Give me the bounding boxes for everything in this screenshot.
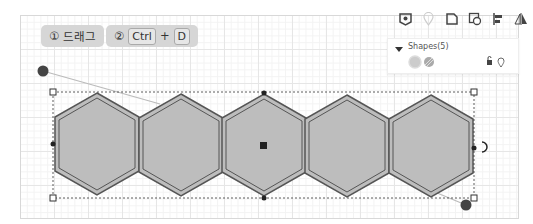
hexagon-shape[interactable] <box>55 93 139 195</box>
resize-handle-right[interactable] <box>472 146 477 151</box>
rotation-handle[interactable] <box>38 66 49 77</box>
resize-handle-top[interactable] <box>262 91 267 96</box>
resize-handle-top-right[interactable] <box>471 89 477 95</box>
rotation-handle[interactable] <box>461 200 472 211</box>
hexagon-shape[interactable] <box>139 94 223 196</box>
resize-handle-bottom-left[interactable] <box>50 195 56 201</box>
resize-handle-bottom[interactable] <box>262 196 267 201</box>
shapes-layer <box>0 0 533 224</box>
center-handle[interactable] <box>260 142 267 149</box>
hexagon-shape[interactable] <box>389 95 473 197</box>
resize-handle-top-left[interactable] <box>50 89 56 95</box>
resize-handle-bottom-right[interactable] <box>471 195 477 201</box>
hexagon-shape[interactable] <box>305 95 389 197</box>
resize-handle-left[interactable] <box>51 142 56 147</box>
rotate-arrow-icon <box>482 142 487 152</box>
